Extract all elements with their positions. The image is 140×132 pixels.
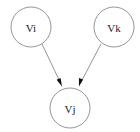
node-label-vj: Vj xyxy=(65,103,76,115)
graph-diagram: Vi Vk Vj xyxy=(0,0,140,132)
node-label-vi: Vi xyxy=(26,22,36,34)
node-vk[interactable]: Vk xyxy=(94,7,134,47)
node-label-vk: Vk xyxy=(107,22,121,34)
node-vi[interactable]: Vi xyxy=(11,7,51,47)
node-vj[interactable]: Vj xyxy=(50,88,90,128)
